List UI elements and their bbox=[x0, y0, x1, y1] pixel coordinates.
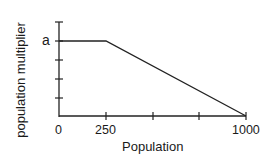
y-axis-label: population multiplier bbox=[13, 22, 28, 138]
x-axis-label: Population bbox=[122, 140, 183, 153]
x-tick-label-250: 250 bbox=[95, 124, 116, 137]
y-tick-label-a: a bbox=[42, 33, 50, 47]
series-line bbox=[59, 41, 246, 116]
x-tick-label-0: 0 bbox=[55, 124, 62, 137]
x-tick-label-1000: 1000 bbox=[232, 124, 260, 137]
